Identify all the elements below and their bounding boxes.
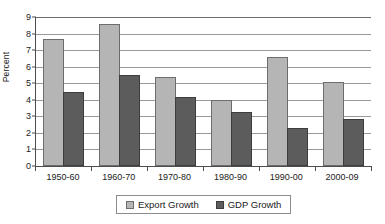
x-axis-tick-mark: [371, 166, 372, 171]
bar-group: [315, 17, 371, 166]
bar-gdp-growth[interactable]: [287, 128, 308, 166]
y-axis-tick-label: 6: [26, 62, 31, 72]
bar-gdp-growth[interactable]: [175, 97, 196, 166]
bar-gdp-growth[interactable]: [63, 92, 84, 167]
bar-group: [148, 17, 204, 166]
legend-label-export-growth: Export Growth: [138, 199, 199, 210]
legend-item-export-growth[interactable]: Export Growth: [126, 199, 199, 210]
y-axis-tick-label: 0: [26, 161, 31, 171]
x-axis-labels: 1950-601960-701970-801980-901990-002000-…: [35, 172, 370, 182]
bar-group: [203, 17, 259, 166]
y-axis-tick-mark: [32, 149, 36, 150]
x-axis-tick-label: 1990-00: [258, 172, 314, 182]
legend-swatch-gdp-growth: [216, 201, 224, 209]
bar-export-growth[interactable]: [155, 77, 176, 166]
y-axis-tick-mark: [32, 33, 36, 34]
bar-export-growth[interactable]: [267, 57, 288, 166]
x-axis-tick-mark: [147, 166, 148, 171]
y-axis-tick-label: 9: [26, 12, 31, 22]
bar-export-growth[interactable]: [43, 39, 64, 166]
x-axis-tick-mark: [203, 166, 204, 171]
y-axis-tick-label: 1: [26, 144, 31, 154]
bar-export-growth[interactable]: [211, 100, 232, 166]
x-axis-tick-label: 1970-80: [147, 172, 203, 182]
legend-label-gdp-growth: GDP Growth: [228, 199, 282, 210]
y-axis-tick-mark: [32, 83, 36, 84]
x-axis-tick-label: 1950-60: [35, 172, 91, 182]
bar-chart: Percent 0123456789 1950-601960-701970-80…: [0, 0, 385, 224]
bar-gdp-growth[interactable]: [231, 112, 252, 166]
y-axis-tick-mark: [32, 66, 36, 67]
bar-groups: [36, 17, 371, 166]
x-axis-tick-label: 1980-90: [202, 172, 258, 182]
legend-item-gdp-growth[interactable]: GDP Growth: [216, 199, 282, 210]
x-axis-tick-mark: [315, 166, 316, 171]
y-axis-tick-mark: [32, 116, 36, 117]
x-axis-tick-label: 2000-09: [314, 172, 370, 182]
x-axis-tick-mark: [259, 166, 260, 171]
y-axis-tick-mark: [32, 99, 36, 100]
y-axis-tick-mark: [32, 17, 36, 18]
legend: Export Growth GDP Growth: [116, 195, 291, 214]
bar-group: [259, 17, 315, 166]
y-axis-tick-mark: [32, 132, 36, 133]
y-axis-tick-mark: [32, 50, 36, 51]
bar-gdp-growth[interactable]: [343, 119, 364, 166]
bar-export-growth[interactable]: [99, 24, 120, 166]
bar-gdp-growth[interactable]: [119, 75, 140, 166]
x-axis-tick-mark: [35, 166, 36, 171]
bar-group: [36, 17, 92, 166]
bar-group: [92, 17, 148, 166]
y-axis-tick-label: 5: [26, 78, 31, 88]
y-axis-tick-label: 7: [26, 45, 31, 55]
plot-area: 0123456789: [35, 17, 371, 167]
y-axis-tick-label: 8: [26, 29, 31, 39]
y-axis-title: Percent: [1, 37, 11, 97]
legend-swatch-export-growth: [126, 201, 134, 209]
y-axis-tick-label: 4: [26, 95, 31, 105]
x-axis-tick-label: 1960-70: [91, 172, 147, 182]
bar-export-growth[interactable]: [323, 82, 344, 166]
y-axis-tick-label: 2: [26, 128, 31, 138]
y-axis-tick-label: 3: [26, 111, 31, 121]
x-axis-tick-mark: [91, 166, 92, 171]
